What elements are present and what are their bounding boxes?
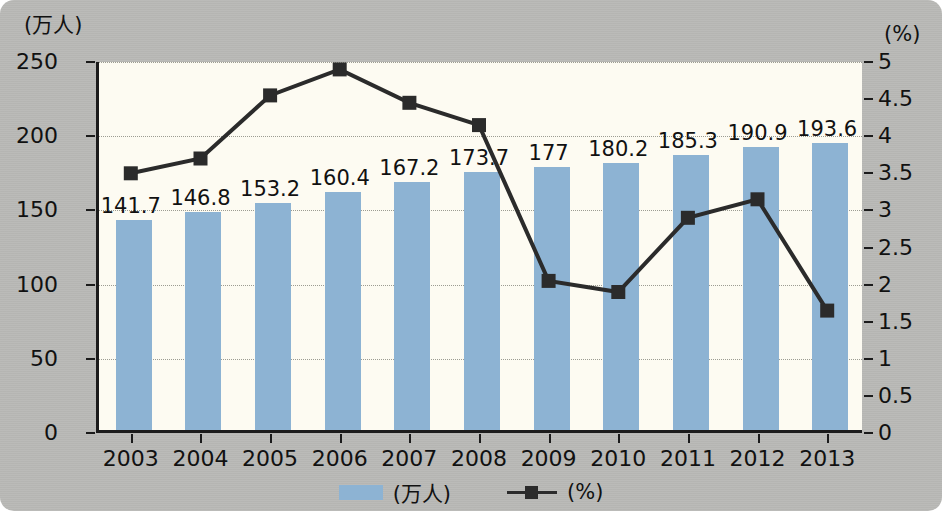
x-tick-mark (549, 434, 551, 443)
left-tick-label: 0 (44, 420, 58, 445)
right-tick-label: 1.5 (878, 309, 913, 334)
right-tick-mark (864, 98, 873, 100)
bar (394, 182, 430, 430)
chart-figure: (万人) (%) 050100150200250 00.511.522.533.… (0, 0, 942, 511)
gridline (99, 62, 862, 63)
right-tick-mark (864, 432, 873, 434)
left-tick-mark (86, 358, 95, 360)
right-tick-mark (864, 209, 873, 211)
legend-item-line: (%) (507, 480, 603, 504)
left-tick-mark (86, 432, 95, 434)
line-marker-icon (507, 485, 557, 499)
x-tick-mark (340, 434, 342, 443)
right-tick-label: 2 (878, 272, 892, 297)
left-tick-mark (86, 284, 95, 286)
right-tick-mark (864, 395, 873, 397)
bar (185, 212, 221, 430)
right-tick-label: 2.5 (878, 235, 913, 260)
x-tick-mark (479, 434, 481, 443)
bar-swatch-icon (339, 485, 383, 500)
legend-label-line: (%) (567, 480, 603, 504)
left-tick-label: 50 (30, 346, 58, 371)
x-tick-mark (131, 434, 133, 443)
left-tick-label: 250 (16, 49, 58, 74)
right-axis-title: (%) (884, 22, 920, 46)
right-tick-mark (864, 61, 873, 63)
right-tick-mark (864, 284, 873, 286)
right-tick-mark (864, 172, 873, 174)
legend-item-bar: (万人) (339, 477, 451, 507)
bar (534, 167, 570, 430)
right-tick-label: 5 (878, 49, 892, 74)
left-tick-mark (86, 135, 95, 137)
right-tick-label: 0 (878, 420, 892, 445)
x-tick-label: 2013 (782, 446, 872, 471)
bar (464, 172, 500, 430)
bar-value-label: 193.6 (782, 117, 872, 141)
bar (325, 192, 361, 430)
bar (255, 203, 291, 430)
right-tick-label: 0.5 (878, 383, 913, 408)
right-tick-label: 4.5 (878, 86, 913, 111)
x-tick-mark (200, 434, 202, 443)
plot-area (96, 62, 862, 433)
left-tick-label: 150 (16, 197, 58, 222)
x-tick-mark (270, 434, 272, 443)
x-tick-mark (827, 434, 829, 443)
left-tick-label: 200 (16, 123, 58, 148)
right-tick-mark (864, 358, 873, 360)
right-tick-label: 3.5 (878, 160, 913, 185)
right-tick-mark (864, 321, 873, 323)
bar (812, 143, 848, 430)
x-tick-mark (409, 434, 411, 443)
bar (603, 163, 639, 430)
right-tick-label: 4 (878, 123, 892, 148)
left-axis-title: (万人) (24, 8, 82, 38)
bar (116, 220, 152, 430)
left-tick-mark (86, 61, 95, 63)
chart-legend: (万人) (%) (0, 477, 942, 507)
legend-label-bar: (万人) (393, 477, 451, 507)
bar (673, 155, 709, 430)
right-tick-label: 1 (878, 346, 892, 371)
bar (743, 147, 779, 430)
x-tick-mark (758, 434, 760, 443)
right-tick-mark (864, 247, 873, 249)
x-tick-mark (618, 434, 620, 443)
right-tick-label: 3 (878, 197, 892, 222)
x-tick-mark (688, 434, 690, 443)
left-tick-label: 100 (16, 272, 58, 297)
